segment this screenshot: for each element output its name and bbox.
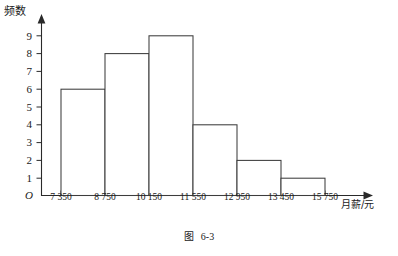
x-tick-label-3: 10 150 [136, 193, 162, 203]
y-tick-label-7: 7 [14, 66, 32, 77]
chart-canvas [0, 0, 398, 256]
x-tick-label-1: 7 350 [50, 193, 71, 203]
y-tick-label-4: 4 [14, 119, 32, 130]
figure-caption: 图6-3 [0, 232, 398, 242]
y-tick-label-3: 3 [14, 137, 32, 148]
y-axis [38, 14, 46, 196]
histogram-bars [61, 36, 325, 196]
x-axis-title: 月薪/元 [341, 200, 374, 210]
y-tick-label-8: 8 [14, 48, 32, 59]
bar-3 [149, 36, 193, 196]
figure-histogram: 频数 月薪/元 O 1 2 3 4 5 6 7 8 9 7 350 8 750 … [0, 0, 398, 256]
y-tick-label-1: 1 [14, 173, 32, 184]
x-tick-label-4: 11 550 [180, 193, 206, 203]
y-axis-title: 频数 [4, 6, 26, 17]
y-tick-label-6: 6 [14, 84, 32, 95]
figure-caption-label: 图 [184, 231, 194, 242]
x-tick-label-7: 15 750 [312, 193, 338, 203]
bar-5 [237, 160, 281, 195]
y-tick-label-5: 5 [14, 102, 32, 113]
histogram-svg [0, 0, 398, 256]
bar-4 [193, 125, 237, 196]
y-axis-arrow [38, 14, 46, 24]
origin-label: O [25, 190, 33, 201]
x-tick-label-2: 8 750 [94, 193, 115, 203]
x-tick-label-6: 13 450 [268, 193, 294, 203]
figure-caption-number: 6-3 [201, 231, 214, 242]
y-tick-label-2: 2 [14, 155, 32, 166]
y-tick-label-9: 9 [14, 31, 32, 42]
y-axis-ticks [37, 36, 42, 178]
x-tick-label-5: 12 950 [224, 193, 250, 203]
bar-2 [105, 54, 149, 196]
bar-1 [61, 89, 105, 195]
